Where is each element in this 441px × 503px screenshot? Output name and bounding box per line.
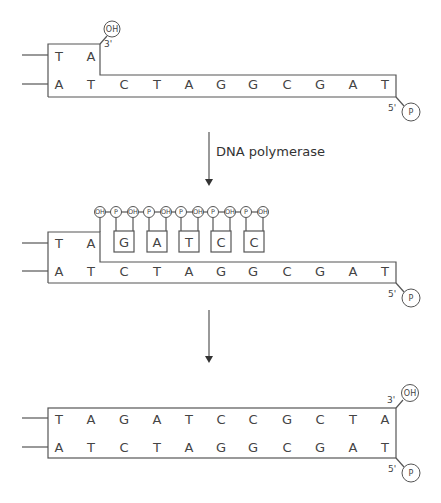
group-label: OH bbox=[258, 208, 268, 216]
bond bbox=[396, 283, 404, 292]
base: A bbox=[349, 264, 358, 279]
step1-primer-template: T A A T C T A G G C G A T OH 3' P 5' bbox=[22, 21, 420, 121]
base: T bbox=[152, 264, 161, 279]
base: T bbox=[380, 264, 389, 279]
base: A bbox=[55, 77, 64, 92]
bond bbox=[396, 97, 404, 106]
arrow-down-icon bbox=[205, 356, 213, 363]
base: T bbox=[380, 77, 389, 92]
base: C bbox=[315, 412, 324, 427]
base: T bbox=[348, 412, 357, 427]
base: C bbox=[119, 440, 128, 455]
three-prime-label: 3' bbox=[104, 39, 112, 49]
arrow-step2-to-step3 bbox=[205, 310, 213, 363]
base: C bbox=[119, 264, 128, 279]
base: G bbox=[248, 77, 258, 92]
base: C bbox=[249, 235, 258, 250]
group-label: P bbox=[179, 208, 183, 216]
base: A bbox=[87, 236, 96, 251]
base: C bbox=[216, 235, 225, 250]
phosphate-label: P bbox=[409, 469, 414, 478]
base: T bbox=[86, 440, 95, 455]
arrow-down-icon bbox=[205, 179, 213, 186]
group-label: P bbox=[114, 208, 118, 216]
five-prime-label: 5' bbox=[388, 103, 396, 113]
base: G bbox=[216, 77, 226, 92]
base: A bbox=[87, 412, 96, 427]
base: A bbox=[185, 77, 194, 92]
base: C bbox=[119, 77, 128, 92]
group-label: OH bbox=[161, 208, 171, 216]
base: T bbox=[152, 77, 161, 92]
step3-completed-duplex: T A G A T C C G C T A A T C T A G G C G … bbox=[22, 385, 420, 483]
base: C bbox=[282, 77, 291, 92]
group-label: OH bbox=[193, 208, 203, 216]
bond bbox=[396, 458, 404, 467]
base: T bbox=[380, 440, 389, 455]
base: A bbox=[55, 264, 64, 279]
base: A bbox=[349, 440, 358, 455]
group-label: OH bbox=[225, 208, 235, 216]
base: C bbox=[282, 264, 291, 279]
base: G bbox=[216, 264, 226, 279]
base: A bbox=[381, 412, 390, 427]
phosphate-label: P bbox=[409, 108, 414, 117]
base: A bbox=[349, 77, 358, 92]
base: A bbox=[153, 235, 162, 250]
group-label: P bbox=[211, 208, 215, 216]
base: T bbox=[184, 235, 193, 250]
hydroxyl-label: OH bbox=[404, 389, 416, 398]
group-label: OH bbox=[128, 208, 138, 216]
arrow-step1-to-step2: DNA polymerase bbox=[205, 132, 325, 186]
five-prime-label: 5' bbox=[388, 464, 396, 474]
base: G bbox=[248, 264, 258, 279]
base: A bbox=[185, 440, 194, 455]
group-label: P bbox=[244, 208, 248, 216]
dna-replication-diagram: T A A T C T A G G C G A T OH 3' P 5' DNA… bbox=[0, 0, 441, 503]
base: G bbox=[119, 235, 129, 250]
base: A bbox=[185, 264, 194, 279]
base: G bbox=[315, 440, 325, 455]
base: T bbox=[184, 412, 193, 427]
base: T bbox=[54, 412, 63, 427]
base: A bbox=[87, 49, 96, 64]
base: T bbox=[54, 236, 63, 251]
base: G bbox=[282, 412, 292, 427]
phosphate-label: P bbox=[409, 294, 414, 303]
base: G bbox=[119, 412, 129, 427]
five-prime-label: 5' bbox=[388, 289, 396, 299]
enzyme-label: DNA polymerase bbox=[216, 144, 325, 159]
base: G bbox=[248, 440, 258, 455]
base: G bbox=[315, 264, 325, 279]
group-label: OH bbox=[95, 208, 105, 216]
base: T bbox=[86, 264, 95, 279]
base: C bbox=[216, 412, 225, 427]
step2-elongation: T A G A T C C bbox=[22, 207, 420, 308]
three-prime-label: 3' bbox=[387, 395, 395, 405]
base: C bbox=[248, 412, 257, 427]
base: T bbox=[152, 440, 161, 455]
group-label: P bbox=[147, 208, 151, 216]
hydroxyl-label: OH bbox=[106, 25, 118, 34]
base: G bbox=[315, 77, 325, 92]
base: A bbox=[153, 412, 162, 427]
base: T bbox=[54, 49, 63, 64]
bond bbox=[396, 400, 403, 408]
base: C bbox=[282, 440, 291, 455]
base: T bbox=[86, 77, 95, 92]
base: A bbox=[55, 440, 64, 455]
base: G bbox=[216, 440, 226, 455]
